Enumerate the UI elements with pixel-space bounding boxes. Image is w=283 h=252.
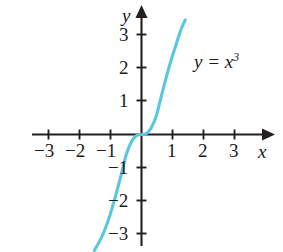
y-tick-label-1: 1	[119, 91, 129, 110]
curve-equation-label: y = x3	[194, 52, 239, 71]
x-tick-label-1: 1	[167, 141, 177, 160]
y-axis-arrowhead	[136, 5, 148, 18]
curve-equation-exponent: 3	[233, 51, 239, 64]
y-tick-label-2: 2	[119, 58, 129, 77]
x-axis-label: x	[258, 142, 266, 161]
x-tick-label-3: 3	[229, 141, 239, 160]
y-axis-label: y	[122, 6, 130, 25]
x-tick-label-2: 2	[198, 141, 208, 160]
x-axis	[32, 129, 275, 141]
curve-equation-base: y = x	[194, 51, 233, 72]
y-tick-label--1: −1	[108, 158, 128, 177]
y-tick-label-3: 3	[119, 25, 129, 44]
plot-area	[0, 0, 283, 252]
y-axis	[136, 5, 148, 246]
x-tick-label--2: −2	[65, 141, 85, 160]
x-tick-label--3: −3	[34, 141, 54, 160]
y-tick-label--2: −2	[108, 191, 128, 210]
x-axis-arrowhead	[262, 129, 275, 141]
y-tick-label--3: −3	[108, 224, 128, 243]
cubic-function-graph-figure: y x −3 −2 −1 1 2 3 3 2 1 −1 −2 −3 y = x3	[0, 0, 283, 252]
